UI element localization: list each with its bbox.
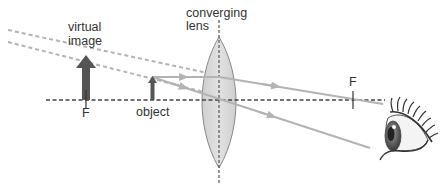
ray-central-arrow-2 bbox=[260, 112, 272, 116]
ray-parallel-arrow-2 bbox=[262, 84, 276, 86]
virtual-image-label-line1: virtual bbox=[68, 20, 101, 34]
ray-central-arrow-1 bbox=[172, 84, 184, 88]
object-label: object bbox=[136, 105, 170, 119]
lens-label-line2: lens bbox=[186, 19, 209, 33]
lens-diagram: virtual image converging lens object F F bbox=[0, 0, 442, 193]
eye-icon bbox=[380, 97, 438, 160]
virtual-image-label-line2: image bbox=[68, 34, 102, 48]
lens-label-line1: converging bbox=[186, 6, 247, 20]
focal-right-label: F bbox=[349, 75, 357, 89]
object-arrow bbox=[148, 76, 157, 100]
focal-left-label: F bbox=[82, 106, 90, 120]
